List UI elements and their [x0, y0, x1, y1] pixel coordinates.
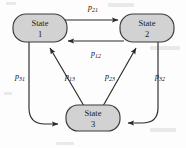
edge-label-p23: p23 — [104, 72, 115, 82]
node-state3-line2: 3 — [91, 119, 95, 129]
node-state2[interactable]: State 2 — [120, 14, 174, 42]
diagram-canvas: State 1 State 2 State 3 p21 p12 p31 p13 … — [0, 0, 186, 148]
node-state2-line1: State — [139, 18, 156, 28]
node-state3[interactable]: State 3 — [66, 105, 120, 131]
node-state3-line1: State — [85, 108, 102, 118]
node-state1-line2: 1 — [38, 29, 42, 39]
edge-label-p13: p13 — [64, 72, 75, 82]
edge-label-p21: p21 — [87, 3, 98, 13]
node-layer: State 1 State 2 State 3 — [13, 14, 174, 131]
node-state1-line1: State — [32, 18, 49, 28]
edge-label-p12: p12 — [90, 49, 101, 59]
edge-label-p31: p31 — [14, 72, 25, 82]
node-state1[interactable]: State 1 — [13, 14, 67, 42]
edge-label-p32: p32 — [154, 72, 165, 82]
node-state2-line2: 2 — [145, 29, 149, 39]
